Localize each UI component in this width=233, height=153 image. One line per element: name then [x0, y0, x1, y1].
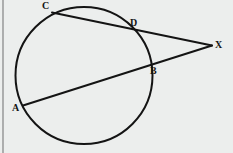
point-label-x: X: [215, 40, 222, 50]
secant-line-abx: [23, 46, 212, 106]
geometry-figure: C D X B A: [0, 0, 233, 153]
point-label-b: B: [150, 66, 157, 76]
point-label-d: D: [130, 18, 137, 28]
point-label-a: A: [12, 103, 19, 113]
point-label-c: C: [42, 1, 49, 11]
diagram-canvas: [0, 0, 233, 153]
